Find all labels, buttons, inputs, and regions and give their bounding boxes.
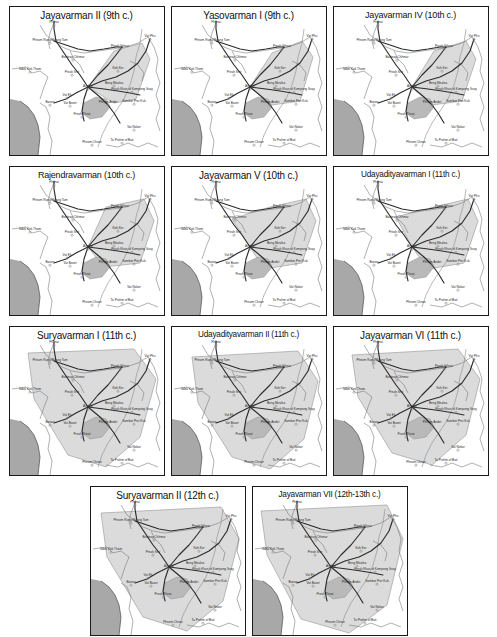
place-label-vat-baset: Vat Baset	[387, 421, 400, 425]
place-label-sdok-kok-thom: Sdok Kok Thom	[262, 547, 284, 551]
place-label-preah-khan-kompong: Preah Khan of Kompong Svay	[192, 567, 234, 571]
place-label-angkor: Angkor	[407, 84, 417, 88]
place-label-ta-prohm-bati: Ta Prohm of Bati	[434, 138, 457, 142]
place-label-preah-theat: Preah Theat	[73, 112, 90, 116]
place-label-sambor-prei-kuk: Sambor Prei Kuk	[446, 99, 470, 103]
place-label-phnom-rung: Phnom Rung/Muang Tam	[194, 358, 229, 362]
place-label-sambor-prei-kuk: Sambor Prei Kuk	[122, 259, 146, 263]
place-label-wat-phu: Vat Phu	[144, 194, 155, 198]
place-label-banteay-chhmar: Banteay Chhmar	[223, 215, 246, 219]
place-label-preah-khan-kompong: Preah Khan of Kompong Svay	[111, 247, 153, 251]
place-label-phnom-rung: Phnom Rung/Muang Tam	[356, 198, 391, 202]
place-label-vat-baset: Vat Baset	[63, 421, 76, 425]
place-label-banon: Banon	[126, 580, 135, 584]
panel-row-1: PhimaiPhnom Rung/Muang TamBanteay Chhmar…	[0, 0, 497, 156]
place-label-sdok-kok-thom: Sdok Kok Thom	[343, 227, 365, 231]
place-label-vat-baset: Vat Baset	[306, 581, 319, 585]
place-label-preah-vihear: Preah Vihear	[434, 364, 452, 368]
place-label-ta-prohm-bati: Ta Prohm of Bati	[353, 618, 376, 622]
place-label-banteay-chhmar: Banteay Chhmar	[223, 375, 246, 379]
place-label-sambor-prei-kuk: Sambor Prei Kuk	[122, 99, 146, 103]
place-label-sambor-prei-kuk: Sambor Prei Kuk	[446, 259, 470, 263]
place-label-ta-prohm-bati: Ta Prohm of Bati	[191, 618, 214, 622]
place-label-vat-nokor: Vat Nokor	[451, 445, 465, 449]
place-label-phnom-rung: Phnom Rung/Muang Tam	[32, 358, 67, 362]
place-label-banteay-chhmar: Banteay Chhmar	[385, 215, 408, 219]
place-label-angkor: Angkor	[326, 564, 336, 568]
panel-title-suryavarman-i: Suryavarman I (11th c.)	[10, 330, 164, 341]
place-label-phimai: Phimai	[211, 340, 221, 344]
place-label-vat-nokor: Vat Nokor	[289, 285, 303, 289]
place-label-vat-ek: Vat Ek	[62, 253, 71, 257]
place-label-vat-baset: Vat Baset	[144, 581, 157, 585]
place-label-angkor: Angkor	[407, 244, 417, 248]
place-label-preah-khan-kompong: Preah Khan of Kompong Svay	[354, 567, 396, 571]
place-label-vat-ek: Vat Ek	[305, 573, 314, 577]
place-label-phnom-andet: Phnom Andet	[179, 580, 198, 584]
map-panel-jayavarman-vi: PhimaiPhnom Rung/Muang TamBanteay Chhmar…	[333, 326, 489, 476]
place-label-koh-ker: Koh Ker	[193, 546, 204, 550]
figure-sheet: PhimaiPhnom Rung/Muang TamBanteay Chhmar…	[0, 0, 497, 637]
place-label-vat-nokor: Vat Nokor	[127, 445, 141, 449]
place-label-beng-mealea: Beng Mealea	[266, 81, 285, 85]
place-label-banon: Banon	[45, 420, 54, 424]
place-label-banon: Banon	[45, 260, 54, 264]
place-label-phnom-andet: Phnom Andet	[98, 260, 117, 264]
place-label-phnom-andet: Phnom Andet	[98, 420, 117, 424]
place-label-koh-ker: Koh Ker	[355, 546, 366, 550]
place-label-sdok-kok-thom: Sdok Kok Thom	[343, 387, 365, 391]
map-panel-suryavarman-ii: PhimaiPhnom Rung/Muang TamBanteay Chhmar…	[90, 486, 246, 636]
place-label-phnom-andet: Phnom Andet	[260, 420, 279, 424]
place-label-beng-mealea: Beng Mealea	[185, 561, 204, 565]
place-label-sdok-kok-thom: Sdok Kok Thom	[100, 547, 122, 551]
panel-row-4: PhimaiPhnom Rung/Muang TamBanteay Chhmar…	[0, 476, 497, 636]
place-label-preah-sralao: Preah Srei	[64, 70, 79, 74]
place-label-sdok-kok-thom: Sdok Kok Thom	[181, 387, 203, 391]
place-label-sambor-prei-kuk: Sambor Prei Kuk	[203, 579, 227, 583]
map-panel-jayavarman-ii: PhimaiPhnom Rung/Muang TamBanteay Chhmar…	[9, 6, 165, 156]
panel-title-suryavarman-ii: Suryavarman II (12th c.)	[91, 490, 245, 501]
place-label-banteay-chhmar: Banteay Chhmar	[142, 535, 165, 539]
place-label-preah-vihear: Preah Vihear	[272, 44, 290, 48]
place-label-preah-sralao: Preah Srei	[388, 390, 403, 394]
place-label-preah-theat: Preah Theat	[73, 272, 90, 276]
place-label-wat-phu: Vat Phu	[306, 354, 317, 358]
place-label-sambor-prei-kuk: Sambor Prei Kuk	[446, 419, 470, 423]
place-label-preah-khan-kompong: Preah Khan of Kompong Svay	[273, 247, 315, 251]
place-label-preah-khan-kompong: Preah Khan of Kompong Svay	[111, 87, 153, 91]
place-label-phnom-chisor: Phnom Chisor	[82, 460, 102, 464]
place-label-vat-baset: Vat Baset	[387, 261, 400, 265]
place-label-phnom-rung: Phnom Rung/Muang Tam	[32, 38, 67, 42]
place-label-sdok-kok-thom: Sdok Kok Thom	[181, 67, 203, 71]
map-canvas: PhimaiPhnom Rung/Muang TamBanteay Chhmar…	[172, 327, 326, 475]
panel-title-jayavarman-v: Jayavarman V (10th c.)	[172, 170, 326, 181]
place-label-wat-phu: Vat Phu	[387, 514, 398, 518]
map-canvas: PhimaiPhnom Rung/Muang TamBanteay Chhmar…	[172, 167, 326, 315]
place-label-preah-theat: Preah Theat	[397, 112, 414, 116]
map-canvas: PhimaiPhnom Rung/Muang TamBanteay Chhmar…	[334, 7, 488, 155]
place-label-preah-vihear: Preah Vihear	[191, 524, 209, 528]
place-label-phnom-chisor: Phnom Chisor	[244, 460, 264, 464]
place-label-ta-prohm-bati: Ta Prohm of Bati	[434, 458, 457, 462]
place-label-phimai: Phimai	[49, 180, 59, 184]
map-panel-udayadityavarman-i: PhimaiPhnom Rung/Muang TamBanteay Chhmar…	[333, 166, 489, 316]
place-label-preah-sralao: Preah Srei	[145, 550, 160, 554]
place-label-angkor: Angkor	[164, 564, 174, 568]
place-label-sambor-prei-kuk: Sambor Prei Kuk	[284, 99, 308, 103]
place-label-banon: Banon	[45, 100, 54, 104]
place-label-banon: Banon	[369, 420, 378, 424]
place-label-preah-sralao: Preah Srei	[226, 70, 241, 74]
panel-title-yasovarman-i: Yasovarman I (9th c.)	[172, 10, 326, 21]
place-label-koh-ker: Koh Ker	[112, 66, 123, 70]
place-label-angkor: Angkor	[83, 244, 93, 248]
map-canvas: PhimaiPhnom Rung/Muang TamBanteay Chhmar…	[334, 327, 488, 475]
panel-title-udayadityavarman-ii: Udayadityavarman II (11th c.)	[172, 330, 326, 339]
place-label-preah-khan-kompong: Preah Khan of Kompong Svay	[273, 407, 315, 411]
place-label-vat-baset: Vat Baset	[63, 101, 76, 105]
place-label-beng-mealea: Beng Mealea	[104, 401, 123, 405]
place-label-koh-ker: Koh Ker	[112, 226, 123, 230]
map-panel-jayavarman-iv: PhimaiPhnom Rung/Muang TamBanteay Chhmar…	[333, 6, 489, 156]
place-label-preah-vihear: Preah Vihear	[110, 204, 128, 208]
panel-title-udayadityavarman-i: Udayadityavarman I (11th c.)	[334, 170, 488, 179]
place-label-preah-sralao: Preah Srei	[226, 230, 241, 234]
